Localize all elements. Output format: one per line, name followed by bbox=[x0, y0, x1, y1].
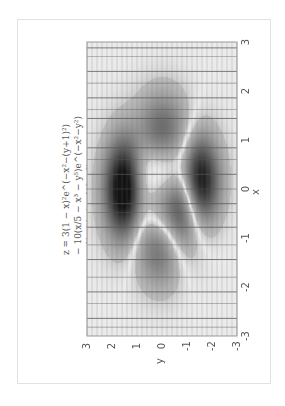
x-tick-label: -1 bbox=[240, 233, 251, 243]
x-tick-label: 1 bbox=[240, 137, 251, 143]
y-tick-label: -1 bbox=[181, 341, 192, 351]
y-tick-label: -2 bbox=[206, 341, 217, 351]
y-tick-label: 2 bbox=[106, 343, 117, 349]
x-tick-label: -3 bbox=[240, 331, 251, 341]
y-tick-label: -3 bbox=[231, 341, 242, 351]
x-tick-label: 2 bbox=[240, 88, 251, 94]
x-axis-label: x bbox=[250, 189, 261, 195]
y-tick-label: 1 bbox=[131, 343, 142, 349]
x-tick-label: 3 bbox=[240, 39, 251, 45]
y-tick-label: 3 bbox=[81, 343, 92, 349]
x-tick-label: -2 bbox=[240, 282, 251, 292]
y-axis-label: y bbox=[154, 358, 165, 364]
axes: -3-2-10123x3210-1-2-3y bbox=[0, 0, 285, 406]
y-tick-label: 0 bbox=[156, 343, 167, 349]
